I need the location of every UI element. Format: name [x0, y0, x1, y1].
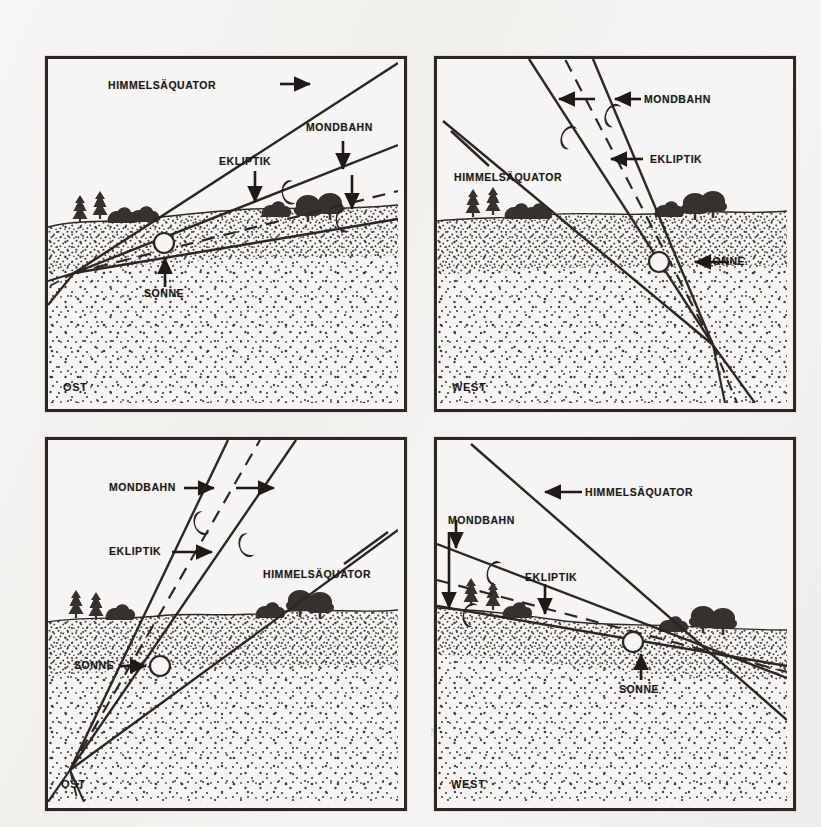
label-sonne: SONNE [144, 287, 184, 299]
label-himmelsaequator: HIMMELSÄQUATOR [585, 486, 693, 498]
label-himmelsaequator: HIMMELSÄQUATOR [454, 171, 562, 183]
label-himmelsaequator: HIMMELSÄQUATOR [108, 79, 216, 91]
label-sonne: SONNE [705, 255, 745, 267]
label-ost: OST [61, 778, 86, 790]
foreground [437, 257, 787, 403]
label-mondbahn: MONDBAHN [644, 93, 711, 105]
panel-bottom-right-west: HIMMELSÄQUATOR MONDBAHN EKLIPTIK SONNE W… [434, 437, 796, 811]
sun-disc [623, 632, 643, 652]
label-himmelsaequator: HIMMELSÄQUATOR [263, 568, 371, 580]
label-ekliptik: EKLIPTIK [219, 155, 271, 167]
sun-disc [150, 656, 170, 676]
panel-bottom-left-ost: MONDBAHN EKLIPTIK HIMMELSÄQUATOR SONNE O… [45, 437, 407, 811]
panel-bottom-left-drawing [48, 440, 398, 802]
label-mondbahn: MONDBAHN [448, 514, 515, 526]
label-mondbahn: MONDBAHN [109, 481, 176, 493]
foreground [48, 251, 398, 403]
label-sonne: SONNE [619, 683, 659, 695]
panel-top-left-drawing [48, 59, 398, 403]
label-ekliptik: EKLIPTIK [109, 545, 161, 557]
sun-disc [154, 233, 174, 253]
foreground [48, 658, 398, 802]
label-ekliptik: EKLIPTIK [650, 153, 702, 165]
label-west: WEST [451, 778, 486, 790]
label-ekliptik: EKLIPTIK [525, 571, 577, 583]
label-west: WEST [452, 381, 487, 393]
label-mondbahn: MONDBAHN [306, 121, 373, 133]
panel-top-right-drawing [437, 59, 787, 403]
astronomy-figure: HIMMELSÄQUATOR MONDBAHN EKLIPTIK SONNE O… [0, 0, 821, 827]
label-ost: OST [63, 381, 88, 393]
panel-top-right-west: MONDBAHN EKLIPTIK HIMMELSÄQUATOR SONNE W… [434, 56, 796, 412]
panel-top-left-ost: HIMMELSÄQUATOR MONDBAHN EKLIPTIK SONNE O… [45, 56, 407, 412]
sun-disc [649, 252, 669, 272]
label-sonne: SONNE [74, 659, 114, 671]
